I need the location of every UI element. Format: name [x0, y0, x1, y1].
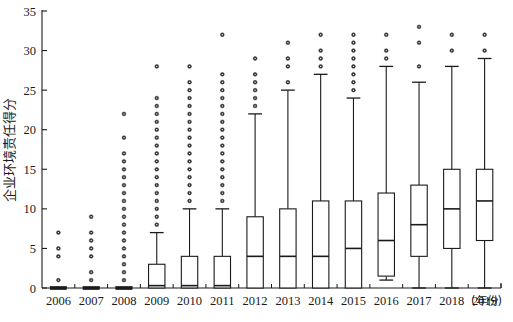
- outlier-point-core: [156, 121, 157, 122]
- outlier-point-core: [58, 232, 59, 233]
- y-tick-label: 5: [30, 242, 36, 256]
- outlier-point-core: [189, 82, 190, 83]
- outlier-point-core: [91, 272, 92, 273]
- outlier-point-core: [254, 89, 255, 90]
- box-2010: [181, 65, 197, 289]
- box-2019: [476, 33, 492, 288]
- box-2009: [149, 65, 165, 289]
- outlier-point-core: [156, 137, 157, 138]
- outlier-point-core: [287, 42, 288, 43]
- outlier-point-core: [156, 97, 157, 98]
- outlier-point-core: [189, 137, 190, 138]
- outlier-point-core: [222, 113, 223, 114]
- x-tick-label: 2013: [275, 294, 300, 308]
- outlier-point-core: [91, 256, 92, 257]
- outlier-point-core: [156, 192, 157, 193]
- x-tick-label: 2017: [407, 294, 432, 308]
- x-tick-label: 2018: [439, 294, 464, 308]
- box-2015: [345, 33, 361, 288]
- outlier-point-core: [189, 184, 190, 185]
- outlier-point-core: [484, 50, 485, 51]
- outlier-point-core: [189, 145, 190, 146]
- outlier-point-core: [156, 113, 157, 114]
- outlier-point-core: [91, 232, 92, 233]
- box-2012: [247, 57, 263, 288]
- outlier-point-core: [353, 89, 354, 90]
- outlier-point-core: [189, 89, 190, 90]
- outlier-point-core: [123, 248, 124, 249]
- x-tick-label: 2009: [144, 294, 169, 308]
- outlier-point-core: [189, 105, 190, 106]
- box-2017: [411, 25, 427, 288]
- outlier-point-core: [222, 82, 223, 83]
- outlier-point-core: [91, 216, 92, 217]
- outlier-point-core: [189, 97, 190, 98]
- outlier-point-core: [156, 161, 157, 162]
- box-rect: [345, 201, 361, 288]
- box-rect: [312, 201, 328, 288]
- box-collapsed: [50, 286, 66, 289]
- outlier-point-core: [254, 58, 255, 59]
- box-rect: [181, 256, 197, 288]
- outlier-point-core: [123, 272, 124, 273]
- outlier-point-core: [189, 161, 190, 162]
- outlier-point-core: [156, 129, 157, 130]
- outlier-point-core: [123, 169, 124, 170]
- chart-canvas: 05101520253035 2006200720082009201020112…: [0, 0, 513, 322]
- outlier-point-core: [418, 66, 419, 67]
- outlier-point-core: [156, 208, 157, 209]
- outlier-point-core: [222, 105, 223, 106]
- outlier-point-core: [189, 66, 190, 67]
- box-2016: [378, 33, 394, 280]
- x-tick-label: 2015: [341, 294, 366, 308]
- outlier-point-core: [156, 177, 157, 178]
- outlier-point-core: [156, 216, 157, 217]
- outlier-point-core: [222, 89, 223, 90]
- x-tick-label: 2007: [79, 294, 104, 308]
- box-2011: [214, 33, 230, 288]
- outlier-point-core: [189, 153, 190, 154]
- outlier-point-core: [353, 58, 354, 59]
- boxplot-chart: 05101520253035 2006200720082009201020112…: [0, 0, 513, 322]
- outlier-point-core: [353, 42, 354, 43]
- outlier-point-core: [320, 66, 321, 67]
- outlier-point-core: [418, 42, 419, 43]
- outlier-point-core: [254, 105, 255, 106]
- outlier-point-core: [353, 82, 354, 83]
- y-axis: 05101520253035: [24, 5, 48, 296]
- outlier-point-core: [320, 58, 321, 59]
- y-tick-label: 25: [24, 84, 37, 98]
- outlier-point-core: [58, 248, 59, 249]
- outlier-point-core: [222, 74, 223, 75]
- outlier-point-core: [156, 224, 157, 225]
- outlier-point-core: [156, 184, 157, 185]
- outlier-point-core: [123, 208, 124, 209]
- outlier-point-core: [123, 184, 124, 185]
- x-tick-label: 2016: [374, 294, 399, 308]
- outlier-point-core: [222, 192, 223, 193]
- outlier-point-core: [189, 200, 190, 201]
- outlier-point-core: [123, 279, 124, 280]
- outlier-point-core: [189, 113, 190, 114]
- outlier-point-core: [484, 34, 485, 35]
- outlier-point-core: [123, 240, 124, 241]
- box-rect: [280, 209, 296, 288]
- outlier-point-core: [222, 121, 223, 122]
- outlier-point-core: [123, 264, 124, 265]
- outlier-point-core: [189, 129, 190, 130]
- outlier-point-core: [222, 200, 223, 201]
- outlier-point-core: [189, 177, 190, 178]
- outlier-point-core: [386, 34, 387, 35]
- box-2006: [50, 231, 66, 290]
- outlier-point-core: [123, 153, 124, 154]
- outlier-point-core: [123, 232, 124, 233]
- y-tick-label: 20: [24, 123, 37, 137]
- outlier-point-core: [320, 34, 321, 35]
- box-rect: [247, 217, 263, 288]
- outlier-point-core: [123, 137, 124, 138]
- x-axis-title: (年份): [471, 294, 502, 308]
- outlier-point-core: [123, 161, 124, 162]
- outlier-point-core: [254, 97, 255, 98]
- outlier-point-core: [58, 279, 59, 280]
- outlier-point-core: [156, 153, 157, 154]
